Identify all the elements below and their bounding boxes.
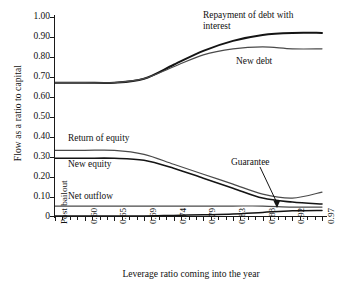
x-tick-label: 0.69 <box>148 208 158 224</box>
chart-figure: Flow as a ratio to capital 1.00 0.90 0.8… <box>0 0 340 291</box>
x-tick-label: 0.60 <box>89 208 99 224</box>
x-axis-tick-labels: Post bailout0.600.650.690.740.790.830.88… <box>0 0 340 291</box>
x-tick-label: Post bailout <box>59 180 69 224</box>
x-tick-label: 0.97 <box>326 208 336 224</box>
x-tick-label: 0.92 <box>296 208 306 224</box>
x-tick-label: 0.83 <box>237 208 247 224</box>
x-axis-title: Leverage ratio coming into the year <box>55 268 327 279</box>
x-tick-label: 0.74 <box>178 208 188 224</box>
x-tick-label: 0.65 <box>118 208 128 224</box>
x-tick-label: 0.79 <box>207 208 217 224</box>
x-tick-label: 0.88 <box>267 208 277 224</box>
